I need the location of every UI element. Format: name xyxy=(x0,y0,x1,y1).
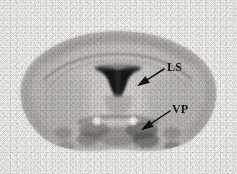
film-grain-layer-3 xyxy=(0,0,237,174)
label-ls: LS xyxy=(167,61,182,73)
figure-panel: LS VP xyxy=(0,0,237,174)
label-vp: VP xyxy=(172,103,188,115)
